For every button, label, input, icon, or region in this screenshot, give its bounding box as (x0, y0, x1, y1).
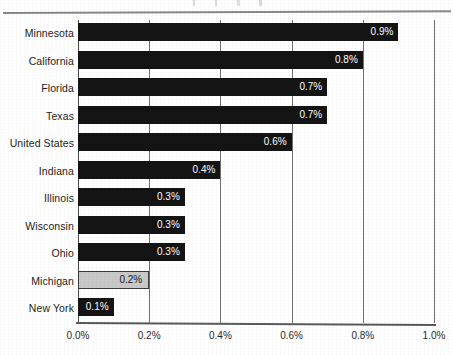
bar-value-label: 0.3% (157, 243, 180, 261)
category-label: Texas (0, 103, 74, 131)
plot-area: Minnesota0.9%California0.8%Florida0.7%Te… (78, 20, 434, 323)
bar-value-label: 0.7% (299, 106, 322, 124)
bar-row: Texas0.7% (78, 103, 434, 131)
bar-row: Florida0.7% (78, 75, 434, 103)
bar[interactable]: 0.6% (78, 133, 292, 151)
category-label: Florida (0, 75, 74, 103)
bar-row: Minnesota0.9% (78, 20, 434, 48)
bar-row: Ohio0.3% (78, 240, 434, 268)
bar-value-label: 0.2% (119, 272, 142, 290)
bar[interactable]: 0.3% (78, 188, 185, 206)
bar-value-label: 0.6% (264, 133, 287, 151)
bar[interactable]: 0.7% (78, 106, 327, 124)
bar-value-label: 0.3% (157, 188, 180, 206)
x-tick-label: 0.0% (48, 330, 108, 341)
bar-chart-figure: Minnesota0.9%California0.8%Florida0.7%Te… (0, 0, 453, 355)
x-tick-label: 0.8% (333, 330, 393, 341)
category-label: Indiana (0, 158, 74, 186)
x-tick-label: 0.6% (262, 330, 322, 341)
bar-value-label: 0.8% (335, 51, 358, 69)
x-tick-label: 1.0% (404, 330, 453, 341)
category-label: New York (0, 295, 74, 323)
bar-value-label: 0.9% (371, 23, 394, 41)
bar[interactable]: 0.9% (78, 23, 398, 41)
bar-row: United States0.6% (78, 130, 434, 158)
bar[interactable]: 0.8% (78, 51, 363, 69)
bar-row: Illinois0.3% (78, 185, 434, 213)
category-label: California (0, 48, 74, 76)
bar-row: Indiana0.4% (78, 158, 434, 186)
bar-row: Michigan0.2% (78, 268, 434, 296)
cropped-title-remnant (186, 0, 296, 6)
category-label: Michigan (0, 268, 74, 296)
category-label: United States (0, 130, 74, 158)
bar-value-label: 0.3% (157, 216, 180, 234)
title-divider-rule (3, 10, 451, 14)
x-tick-label: 0.2% (119, 330, 179, 341)
category-label: Minnesota (0, 20, 74, 48)
bar-value-label: 0.4% (193, 161, 216, 179)
gridline-10 (434, 20, 435, 323)
bar-highlighted[interactable]: 0.2% (78, 271, 149, 289)
category-label: Ohio (0, 240, 74, 268)
category-label: Illinois (0, 185, 74, 213)
bar-value-label: 0.1% (86, 298, 109, 316)
bar[interactable]: 0.3% (78, 243, 185, 261)
bar-row: California0.8% (78, 48, 434, 76)
category-label: Wisconsin (0, 213, 74, 241)
bar-row: New York0.1% (78, 295, 434, 323)
bar[interactable]: 0.4% (78, 161, 220, 179)
bar-value-label: 0.7% (299, 78, 322, 96)
bar[interactable]: 0.1% (78, 298, 114, 316)
x-tick-label: 0.4% (190, 330, 250, 341)
bar-row: Wisconsin0.3% (78, 213, 434, 241)
bar[interactable]: 0.3% (78, 216, 185, 234)
bar[interactable]: 0.7% (78, 78, 327, 96)
